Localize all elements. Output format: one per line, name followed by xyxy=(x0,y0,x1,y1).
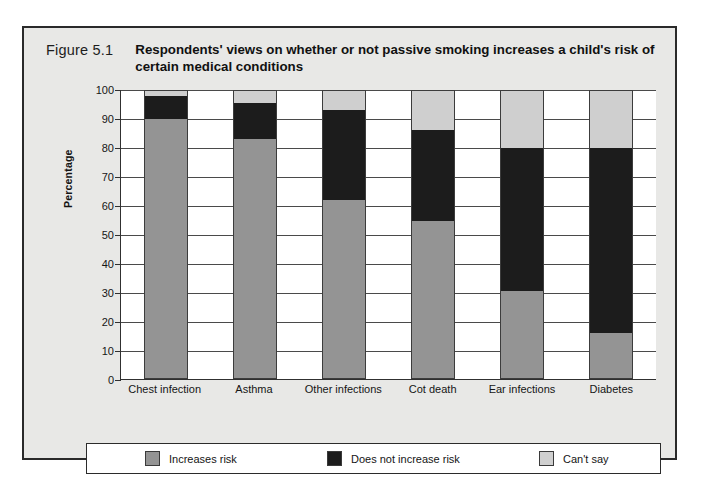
legend-item[interactable]: Does not increase risk xyxy=(327,451,460,466)
legend-item-label: Can't say xyxy=(563,453,609,465)
y-tick-label: 40 xyxy=(102,258,114,270)
y-tick-label: 0 xyxy=(108,374,114,386)
figure-frame: Figure 5.1 Respondents' views on whether… xyxy=(22,26,677,460)
bar-segment xyxy=(411,130,455,221)
y-tick-label: 50 xyxy=(102,229,114,241)
y-tick-label: 80 xyxy=(102,142,114,154)
legend-swatch-icon xyxy=(327,451,342,466)
bar-segment xyxy=(411,90,455,130)
bar-segment xyxy=(500,148,544,291)
figure-container: Figure 5.1 Respondents' views on whether… xyxy=(0,0,703,486)
bar-segment xyxy=(322,200,366,379)
stacked-bar[interactable] xyxy=(411,90,455,379)
legend-swatch-icon xyxy=(539,451,554,466)
stacked-bar[interactable] xyxy=(500,90,544,379)
legend-item[interactable]: Increases risk xyxy=(145,451,237,466)
x-tick-label: Asthma xyxy=(209,383,298,395)
y-tick-label: 70 xyxy=(102,171,114,183)
y-tick-label: 60 xyxy=(102,200,114,212)
bars-layer xyxy=(121,90,656,379)
y-tick-label: 100 xyxy=(96,84,114,96)
legend-item-label: Increases risk xyxy=(169,453,237,465)
bar-segment xyxy=(322,90,366,110)
stacked-bar[interactable] xyxy=(233,90,277,379)
bar-segment xyxy=(411,221,455,379)
bar-segment xyxy=(144,96,188,119)
bar-segment xyxy=(322,110,366,200)
y-axis-tick-labels: 1009080706050403020100 xyxy=(78,90,114,380)
bar-slot xyxy=(567,90,656,379)
x-axis-tick-labels: Chest infectionAsthmaOther infectionsCot… xyxy=(120,383,656,395)
legend-item-label: Does not increase risk xyxy=(351,453,460,465)
chart-legend: Increases riskDoes not increase riskCan'… xyxy=(86,443,661,474)
stacked-bar[interactable] xyxy=(144,90,188,379)
legend-item[interactable]: Can't say xyxy=(539,451,609,466)
bar-segment xyxy=(233,90,277,103)
stacked-bar[interactable] xyxy=(322,90,366,379)
bar-segment xyxy=(589,148,633,333)
bar-segment xyxy=(500,291,544,379)
figure-number: Figure 5.1 xyxy=(46,42,113,58)
y-tick-label: 30 xyxy=(102,287,114,299)
y-axis-title: Percentage xyxy=(62,194,74,208)
x-tick-label: Diabetes xyxy=(567,383,656,395)
x-tick-label: Cot death xyxy=(388,383,477,395)
plot-area: Percentage 1009080706050403020100 Chest … xyxy=(64,90,656,406)
bar-segment xyxy=(589,333,633,379)
x-tick-label: Ear infections xyxy=(477,383,566,395)
bar-slot xyxy=(210,90,299,379)
bar-slot xyxy=(299,90,388,379)
stacked-bar[interactable] xyxy=(589,90,633,379)
y-tick-label: 20 xyxy=(102,316,114,328)
legend-swatch-icon xyxy=(145,451,160,466)
bar-slot xyxy=(121,90,210,379)
chart-plot-box xyxy=(120,90,656,380)
y-tick-label: 10 xyxy=(102,345,114,357)
bar-segment xyxy=(144,119,188,379)
bar-slot xyxy=(478,90,567,379)
x-tick-label: Other infections xyxy=(299,383,388,395)
x-tick-label: Chest infection xyxy=(120,383,209,395)
y-tick-mark xyxy=(115,380,121,381)
bar-slot xyxy=(389,90,478,379)
bar-segment xyxy=(233,139,277,379)
page-title: Respondents' views on whether or not pas… xyxy=(135,42,658,75)
y-tick-label: 90 xyxy=(102,113,114,125)
figure-title-row: Figure 5.1 Respondents' views on whether… xyxy=(46,42,658,75)
bar-segment xyxy=(233,103,277,139)
bar-segment xyxy=(500,90,544,148)
bar-segment xyxy=(589,90,633,148)
